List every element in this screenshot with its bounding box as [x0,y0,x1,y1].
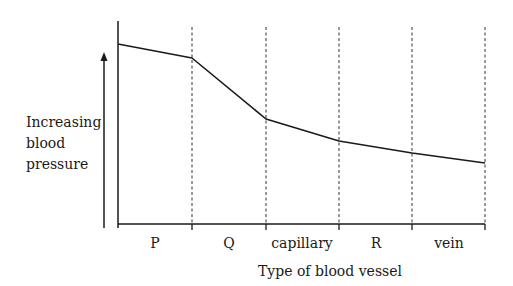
y-axis-label: Increasing blood pressure [26,112,101,175]
increase-arrow-icon [101,52,108,228]
category-vein: vein [434,234,464,252]
category-q: Q [223,234,234,252]
x-axis-title: Type of blood vessel [258,262,402,280]
pressure-line [118,44,485,163]
y-label-line2: blood [26,133,101,154]
category-r: R [371,234,382,252]
category-capillary: capillary [271,234,333,252]
y-label-line1: Increasing [26,112,101,133]
category-p: P [150,234,159,252]
y-label-line3: pressure [26,154,101,175]
x-ticks [192,224,485,230]
category-dividers [192,27,485,224]
